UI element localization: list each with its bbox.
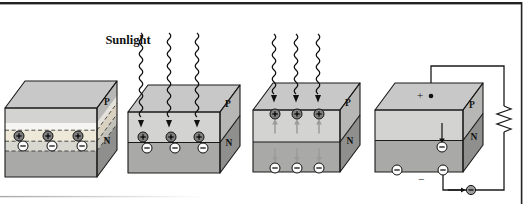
n-layer-label: N [471, 132, 478, 142]
n-layer-front [375, 141, 463, 173]
positive-terminal-label: + [417, 89, 423, 101]
p-layer-label: P [225, 99, 231, 109]
positive-charge [14, 131, 24, 141]
negative-charge [314, 163, 324, 173]
stage-2-photon-absorption: P N [128, 33, 240, 173]
n-layer-front [5, 151, 97, 177]
depletion-band [5, 123, 97, 130]
p-layer-front [375, 110, 463, 141]
negative-charge [77, 141, 87, 151]
negative-charge [170, 143, 180, 153]
n-layer-label: N [226, 138, 233, 148]
negative-charge [438, 165, 448, 175]
stage-3-charge-separation: P N [253, 34, 360, 173]
p-layer-label: P [345, 98, 351, 108]
positive-charge [138, 132, 148, 142]
n-layer-label: N [347, 136, 354, 146]
positive-charge [292, 109, 302, 119]
resistor-icon [497, 106, 511, 132]
stage-1-pn-junction: P N [5, 81, 117, 177]
right-border [521, 2, 523, 204]
p-layer-label: P [104, 97, 110, 107]
positive-charge [194, 132, 204, 142]
negative-charge [47, 141, 57, 151]
positive-charge [73, 131, 83, 141]
negative-charge [437, 142, 447, 152]
negative-charge [392, 165, 402, 175]
solar-cell-diagram: Sunlight P N [0, 0, 527, 204]
positive-charge [314, 109, 324, 119]
negative-charge [292, 163, 302, 173]
p-layer-front [5, 108, 97, 123]
negative-charge [198, 143, 208, 153]
current-flow-arrow [448, 187, 466, 192]
negative-terminal-label: − [418, 173, 424, 185]
solar-cell-figure: Sunlight P N [0, 0, 527, 204]
top-border [0, 2, 522, 4]
sunlight-label: Sunlight [105, 33, 151, 47]
negative-charge [18, 141, 28, 151]
p-layer-label: P [469, 100, 475, 110]
negative-charge [270, 163, 280, 173]
negative-charge [142, 143, 152, 153]
positive-terminal-dot [429, 94, 434, 99]
bottom-rule [0, 196, 205, 197]
positive-charge [166, 132, 176, 142]
stage-4-circuit: + − P N [375, 66, 511, 195]
positive-charge [43, 131, 53, 141]
positive-charge [270, 109, 280, 119]
n-layer-label: N [104, 136, 111, 146]
arrowhead-icon [461, 187, 466, 192]
electron-in-wire [466, 185, 475, 194]
